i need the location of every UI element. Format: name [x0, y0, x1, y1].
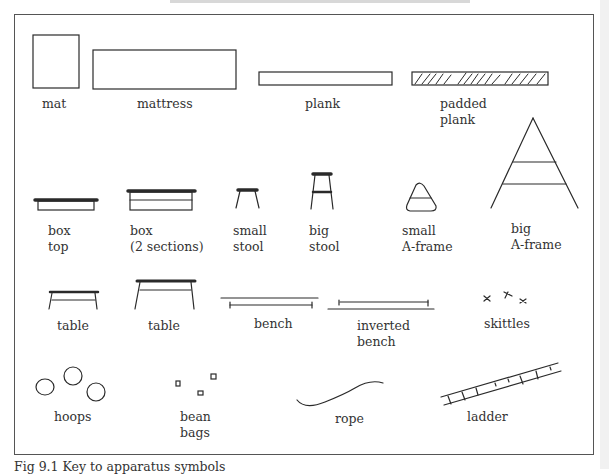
label-rope: rope	[335, 411, 364, 427]
ladder-symbol	[441, 363, 561, 405]
rope-symbol	[297, 382, 383, 406]
table-big-symbol	[135, 281, 195, 309]
plank-symbol	[259, 72, 392, 85]
label-table-small: table	[57, 318, 89, 334]
label-box-top: box top	[48, 223, 71, 255]
small-stool-symbol	[236, 190, 259, 208]
mattress-symbol	[93, 50, 236, 89]
label-box-2-sections: box (2 sections)	[130, 223, 204, 255]
inverted-bench-symbol	[328, 300, 434, 309]
figure-caption: Fig 9.1 Key to apparatus symbols	[14, 460, 226, 474]
label-mat: mat	[42, 96, 66, 112]
skittles-symbol	[484, 292, 526, 303]
box-2-sections-symbol	[128, 191, 195, 210]
big-a-frame-symbol	[491, 118, 578, 208]
small-a-frame-symbol	[406, 183, 436, 211]
bench-symbol	[221, 298, 318, 308]
label-mattress: mattress	[137, 96, 193, 112]
label-small-stool: small stool	[233, 223, 267, 255]
hoops-symbol	[36, 367, 105, 401]
label-small-a-frame: small A-frame	[402, 223, 453, 255]
label-big-stool: big stool	[309, 223, 340, 255]
label-table-big: table	[148, 318, 180, 334]
big-stool-symbol	[311, 174, 333, 209]
label-hoops: hoops	[54, 409, 92, 425]
label-inverted-bench: inverted bench	[357, 318, 410, 350]
label-bean-bags: bean bags	[180, 409, 211, 441]
label-big-a-frame: big A-frame	[511, 221, 562, 253]
label-padded-plank: padded plank	[440, 96, 487, 128]
label-plank: plank	[305, 96, 340, 112]
label-bench: bench	[254, 316, 293, 332]
box-top-symbol	[35, 200, 97, 210]
padded-plank-symbol	[412, 72, 548, 85]
mat-symbol	[33, 35, 79, 88]
label-skittles: skittles	[484, 316, 530, 332]
bean-bags-symbol	[176, 374, 216, 395]
table-small-symbol	[49, 292, 98, 309]
label-ladder: ladder	[467, 409, 508, 425]
